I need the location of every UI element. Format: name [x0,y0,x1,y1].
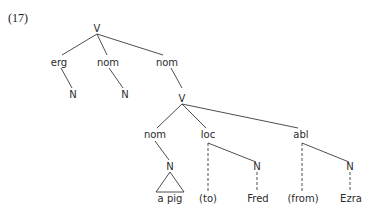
node-abl: abl [293,129,308,140]
example-number: (17) [8,11,28,25]
edge-root-erg [62,34,97,55]
leaf-from: (from) [287,193,318,204]
leaf-ezra: Ezra [340,193,362,204]
node-n-loc: N [253,161,260,172]
node-nom2: nom [156,57,178,68]
node-labels: V erg nom nom N N V nom loc abl N N N [51,23,354,172]
edge-v-loc [182,104,206,128]
edge-loc-n [208,143,256,162]
leaf-to: (to) [199,193,217,204]
edge-v-nom3 [157,104,182,128]
leaf-a-pig: a pig [158,193,183,204]
node-n-nom3: N [166,161,173,172]
edge-nom2-v [171,68,182,88]
node-loc: loc [201,129,215,140]
node-root-v: V [94,23,101,34]
edge-v-abl [182,104,298,128]
node-erg: erg [51,57,67,68]
edge-nom1-n [109,68,123,88]
edges-inner [155,104,350,192]
node-nom1: nom [97,57,119,68]
triangle-a-pig [156,172,184,192]
leaf-labels: a pig (to) Fred (from) Ezra [158,193,362,204]
node-n-abl: N [346,161,353,172]
edge-abl-n [302,143,349,162]
node-nom3: nom [144,129,166,140]
node-n-nom1: N [121,89,128,100]
edge-erg-n [61,68,72,88]
node-v-inner: V [179,93,186,104]
edge-nom3-n [155,141,169,160]
leaf-fred: Fred [247,193,268,204]
node-n-erg: N [69,89,76,100]
syntax-tree-diagram: (17) V erg nom nom N N V nom loc [0,0,372,214]
edge-root-nom2 [97,34,163,55]
